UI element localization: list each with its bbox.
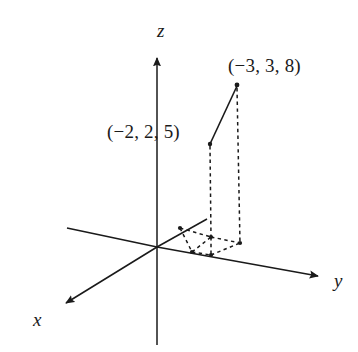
y-axis-positive-line — [157, 247, 318, 276]
point-marker-near — [208, 142, 212, 146]
coordinate-axes-svg — [0, 0, 358, 352]
base-node-dot — [209, 235, 213, 239]
point-connector-segment — [210, 86, 237, 144]
x-axis-positive-line — [66, 247, 157, 303]
base-projection-edges — [180, 228, 240, 255]
x-axis-negative-line — [157, 219, 207, 247]
z-axis-label: z — [157, 21, 164, 40]
drop-line-near — [210, 146, 211, 238]
y-axis-label: y — [334, 271, 342, 290]
drop-line-far — [237, 88, 240, 244]
x-axis-label: x — [33, 310, 41, 329]
point-marker-far — [235, 83, 240, 88]
base-node-dot — [238, 241, 242, 245]
y-axis-negative-line — [67, 228, 157, 247]
base-edge-b — [211, 237, 240, 243]
point-label-far: (−3, 3, 8) — [228, 56, 301, 75]
base-node-dot — [178, 226, 182, 230]
base-edge-e — [211, 243, 240, 255]
coordinate-system-figure: z y x (−3, 3, 8) (−2, 2, 5) — [0, 0, 358, 352]
base-node-dot — [190, 250, 194, 254]
point-label-near: (−2, 2, 5) — [107, 122, 180, 141]
base-node-dot — [209, 253, 213, 257]
base-edge-f — [192, 237, 211, 252]
